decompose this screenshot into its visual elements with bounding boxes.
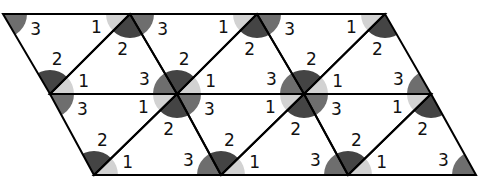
angle-label-2: 2 bbox=[244, 39, 255, 59]
angle-label-2: 2 bbox=[117, 39, 128, 59]
angle-label-1: 1 bbox=[205, 71, 216, 91]
angle-label-2: 2 bbox=[52, 49, 63, 69]
angle-label-2: 2 bbox=[290, 119, 301, 139]
angle-label-3: 3 bbox=[157, 19, 168, 39]
triangle-edges bbox=[3, 14, 476, 175]
angle-label-1: 1 bbox=[218, 17, 229, 37]
angle-label-1: 1 bbox=[392, 97, 403, 117]
angle-3-sector bbox=[452, 151, 500, 185]
angle-label-1: 1 bbox=[78, 71, 89, 91]
angle-label-3: 3 bbox=[310, 150, 321, 170]
angle-label-1: 1 bbox=[265, 97, 276, 117]
angle-label-2: 2 bbox=[224, 130, 235, 150]
angle-label-2: 2 bbox=[306, 49, 317, 69]
angle-label-2: 2 bbox=[163, 119, 174, 139]
angle-label-3: 3 bbox=[393, 69, 404, 89]
angle-label-3: 3 bbox=[331, 99, 342, 119]
tessellation-diagram: 312213312213312213312213312213312213 bbox=[0, 0, 504, 185]
angle-label-2: 2 bbox=[351, 130, 362, 150]
angle-label-1: 1 bbox=[122, 152, 133, 172]
angle-label-3: 3 bbox=[266, 69, 277, 89]
angle-label-1: 1 bbox=[332, 71, 343, 91]
angle-label-2: 2 bbox=[417, 119, 428, 139]
angle-label-3: 3 bbox=[139, 69, 150, 89]
angle-label-1: 1 bbox=[249, 152, 260, 172]
angle-label-1: 1 bbox=[346, 17, 357, 37]
angle-label-2: 2 bbox=[372, 39, 383, 59]
tessellation-canvas: 312213312213312213312213312213312213 bbox=[0, 0, 504, 185]
angle-label-2: 2 bbox=[179, 49, 190, 69]
angle-label-1: 1 bbox=[91, 17, 102, 37]
angle-label-3: 3 bbox=[204, 99, 215, 119]
angle-label-3: 3 bbox=[30, 19, 41, 39]
angle-label-3: 3 bbox=[438, 150, 449, 170]
angle-label-3: 3 bbox=[77, 99, 88, 119]
angle-label-1: 1 bbox=[376, 152, 387, 172]
angle-label-3: 3 bbox=[183, 150, 194, 170]
angle-label-2: 2 bbox=[97, 130, 108, 150]
angle-label-3: 3 bbox=[284, 19, 295, 39]
angle-label-1: 1 bbox=[138, 97, 149, 117]
